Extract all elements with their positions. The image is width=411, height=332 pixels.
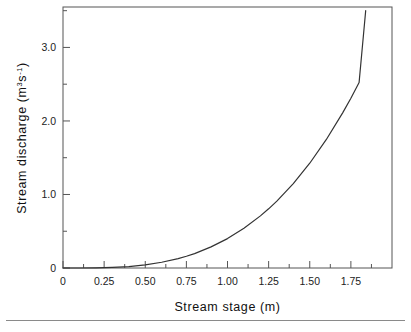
- x-tick-label: 0.25: [94, 275, 115, 287]
- x-tick-label: 1.50: [300, 275, 321, 287]
- y-tick-label: 3.0: [41, 41, 56, 53]
- chart-figure: 00.250.500.751.001.251.501.75 01.02.03.0…: [0, 0, 411, 332]
- stream-rating-curve-chart: 00.250.500.751.001.251.501.75 01.02.03.0…: [0, 0, 411, 332]
- x-tick-label: 0.50: [135, 275, 156, 287]
- x-tick-label: 0: [60, 275, 66, 287]
- x-axis-title: Stream stage (m): [174, 300, 280, 314]
- x-tick-label: 1.25: [258, 275, 279, 287]
- footer-divider: [6, 320, 405, 321]
- y-tick-label: 1.0: [41, 188, 56, 200]
- y-tick-label: 2.0: [41, 115, 56, 127]
- x-tick-label: 1.75: [341, 275, 362, 287]
- y-tick-label: 0: [50, 262, 56, 274]
- x-tick-label: 0.75: [176, 275, 197, 287]
- x-tick-label: 1.00: [217, 275, 238, 287]
